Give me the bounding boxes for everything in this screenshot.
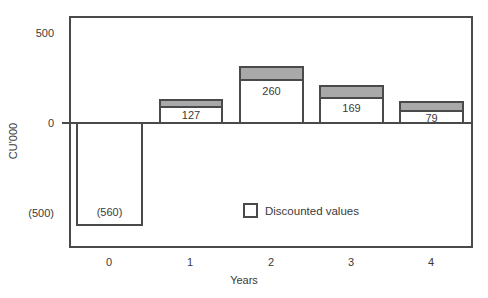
bar-value-year-2: 260 bbox=[241, 85, 302, 97]
y-axis-title: CU'000 bbox=[7, 106, 19, 176]
legend-swatch-discounted-values bbox=[243, 203, 258, 218]
bar-chart: 500 0 (500) CU'000 (560) 127 260 169 79 … bbox=[0, 0, 488, 298]
x-axis-label-0: 0 bbox=[79, 256, 139, 268]
legend-label-discounted-values: Discounted values bbox=[265, 205, 359, 217]
bar-cap-year-1 bbox=[161, 101, 221, 108]
bar-value-year-4: 79 bbox=[401, 112, 462, 124]
bar-year-0: (560) bbox=[76, 122, 143, 226]
bar-value-year-0: (560) bbox=[78, 206, 141, 218]
bar-cap-year-2 bbox=[241, 68, 302, 81]
bar-year-2: 260 bbox=[239, 66, 304, 124]
y-axis-label-500: 500 bbox=[0, 28, 62, 39]
x-axis-title: Years bbox=[0, 274, 488, 286]
bar-cap-year-3 bbox=[321, 87, 382, 99]
bar-year-1: 127 bbox=[159, 99, 223, 124]
bar-year-4: 79 bbox=[399, 101, 464, 124]
x-axis-label-3: 3 bbox=[321, 256, 381, 268]
bar-cap-year-4 bbox=[401, 103, 462, 112]
bar-year-3: 169 bbox=[319, 85, 384, 124]
x-axis-label-1: 1 bbox=[160, 256, 220, 268]
x-axis-label-2: 2 bbox=[241, 256, 301, 268]
x-axis-label-4: 4 bbox=[401, 256, 461, 268]
y-axis-label-neg-500: (500) bbox=[0, 208, 62, 219]
bar-value-year-3: 169 bbox=[321, 102, 382, 114]
legend: Discounted values bbox=[243, 203, 359, 218]
y-axis-tick-0 bbox=[62, 122, 70, 124]
bar-value-year-1: 127 bbox=[161, 109, 221, 121]
